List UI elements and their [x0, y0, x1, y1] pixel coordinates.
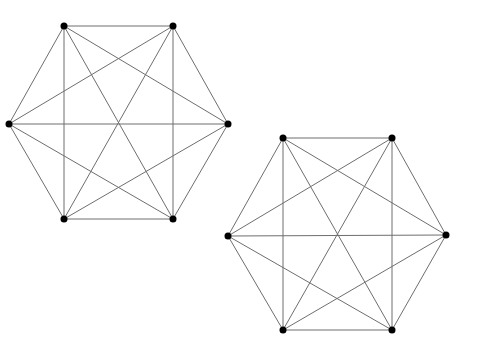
edge-d-f [9, 124, 173, 219]
edge-b-f [9, 26, 173, 124]
complete-graph-k6-right [225, 135, 450, 334]
vertex-a [280, 135, 287, 142]
vertex-e [61, 216, 68, 223]
edge-b-c [173, 26, 228, 124]
edge-e-f [228, 236, 283, 330]
complete-graph-k6-left [6, 23, 232, 223]
vertex-d [389, 327, 396, 334]
edge-c-e [64, 124, 228, 219]
edge-a-f [9, 26, 64, 124]
vertex-c [225, 121, 232, 128]
edge-a-f [228, 138, 283, 236]
vertex-b [389, 135, 396, 142]
vertex-a [61, 23, 68, 30]
vertex-f [6, 121, 13, 128]
vertex-b [170, 23, 177, 30]
edge-b-f [228, 138, 392, 236]
edge-e-f [9, 124, 64, 219]
vertex-c [443, 232, 450, 239]
vertex-e [280, 327, 287, 334]
edge-b-c [392, 138, 446, 235]
edge-d-f [228, 236, 392, 330]
edge-a-c [64, 26, 228, 124]
edge-c-d [392, 235, 446, 330]
vertex-d [170, 216, 177, 223]
graph-diagram-canvas [0, 0, 483, 360]
edge-c-d [173, 124, 228, 219]
edge-c-e [283, 235, 446, 330]
vertex-f [225, 233, 232, 240]
edge-c-f [228, 235, 446, 236]
